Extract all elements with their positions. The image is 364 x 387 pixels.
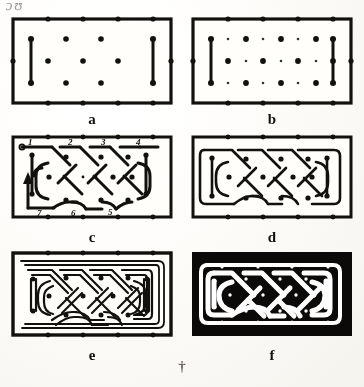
- panel-row-2: 1 2 3 4 7 6 5 c: [0, 130, 364, 248]
- panel-a-drawing: [8, 14, 176, 110]
- panel-d-drawing: [188, 130, 356, 228]
- panel-caption-b: b: [188, 110, 356, 130]
- panel-cell-c: 1 2 3 4 7 6 5 c: [8, 130, 176, 248]
- panel-c-drawing: 1 2 3 4 7 6 5: [8, 130, 176, 228]
- step-label-1: 1: [28, 137, 33, 147]
- panel-cell-b: b: [188, 14, 356, 130]
- panel-caption-c: c: [8, 228, 176, 248]
- bottom-dagger-mark: †: [0, 358, 364, 375]
- panel-c: 1 2 3 4 7 6 5: [8, 130, 176, 228]
- figure-page: ɔ ʊ: [0, 0, 364, 387]
- panel-row-1: a: [0, 14, 364, 130]
- panel-caption-d: d: [188, 228, 356, 248]
- panel-b: [188, 14, 356, 110]
- panel-cell-e: e: [8, 248, 176, 366]
- panel-d: [188, 130, 356, 228]
- step-label-6: 6: [71, 208, 76, 218]
- panel-a: [8, 14, 176, 110]
- step-label-3: 3: [100, 137, 106, 147]
- panel-cell-d: d: [188, 130, 356, 248]
- step-label-4: 4: [135, 137, 141, 147]
- panel-e-drawing: [8, 248, 176, 346]
- step-label-7: 7: [37, 208, 42, 218]
- panel-cell-f: f: [188, 248, 356, 366]
- panel-grid: a: [0, 14, 364, 366]
- stray-scan-mark: ɔ ʊ: [5, 0, 48, 14]
- panel-e: [8, 248, 176, 346]
- panel-f-drawing: [188, 248, 356, 346]
- panel-f: [188, 248, 356, 346]
- step-label-2: 2: [67, 137, 73, 147]
- panel-cell-a: a: [8, 14, 176, 130]
- panel-row-3: e: [0, 248, 364, 366]
- step-label-5: 5: [108, 207, 113, 217]
- panel-b-drawing: [188, 14, 356, 110]
- panel-caption-a: a: [8, 110, 176, 130]
